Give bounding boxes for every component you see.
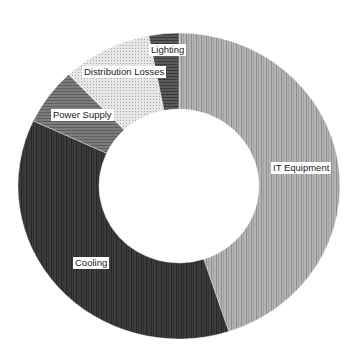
donut-slices (18, 33, 340, 339)
label-cooling: Cooling (73, 257, 109, 269)
label-lighting: Lighting (149, 44, 186, 56)
label-power-supply: Power Supply (51, 109, 114, 121)
label-it-equipment: IT Equipment (271, 162, 331, 174)
label-distribution-losses: Distribution Losses (82, 66, 166, 78)
slice-cooling (18, 121, 229, 339)
